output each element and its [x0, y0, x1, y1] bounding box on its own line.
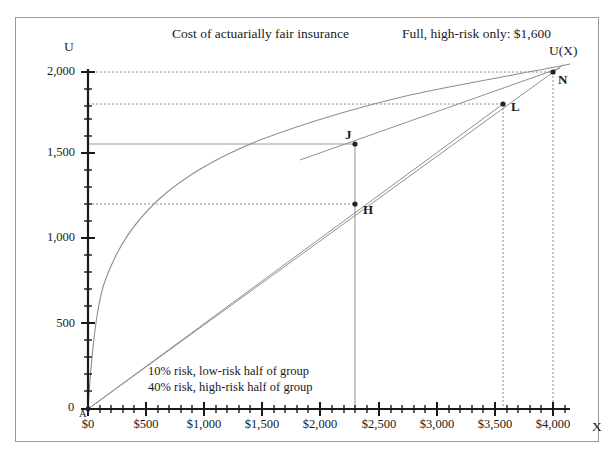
note-low-risk: 10% risk, low-risk half of group [148, 365, 309, 378]
y-tick-label-500: 500 [27, 317, 75, 330]
x-axis-title: X [592, 420, 602, 434]
x-tick-label-3500: $3,500 [466, 418, 524, 431]
x-tick-label-3000: $3,000 [408, 418, 466, 431]
point-label-n: N [558, 73, 567, 86]
top-right-annotation: Full, high-risk only: $1,600 [402, 27, 551, 41]
point-label-h: H [363, 203, 373, 216]
chart-title: Cost of actuarially fair insurance [172, 27, 349, 41]
x-tick-label-4000: $4,000 [524, 418, 582, 431]
curve-label-ux: U(X) [549, 44, 578, 58]
point-label-j: J [345, 128, 352, 141]
note-high-risk: 40% risk, high-risk half of group [148, 381, 313, 394]
y-axis-title: U [64, 40, 74, 54]
y-tick-label-2000: 2,000 [27, 65, 75, 78]
x-tick-label-1500: $1,500 [233, 418, 291, 431]
y-tick-label-1500: 1,500 [27, 146, 75, 159]
data-point-n[interactable] [550, 69, 555, 74]
x-tick-label-500: $500 [118, 418, 174, 431]
chord-a-n [88, 65, 563, 409]
data-point-h[interactable] [352, 201, 357, 206]
point-label-l: L [511, 100, 520, 113]
x-tick-label-0: $0 [68, 418, 108, 431]
y-tick-label-1000: 1,000 [27, 231, 75, 244]
data-point-j[interactable] [352, 141, 357, 146]
y-tick-label-0: 0 [68, 401, 74, 414]
x-tick-label-1000: $1,000 [175, 418, 233, 431]
data-point-l[interactable] [500, 101, 505, 106]
x-tick-label-2500: $2,500 [350, 418, 408, 431]
x-tick-label-2000: $2,000 [291, 418, 349, 431]
